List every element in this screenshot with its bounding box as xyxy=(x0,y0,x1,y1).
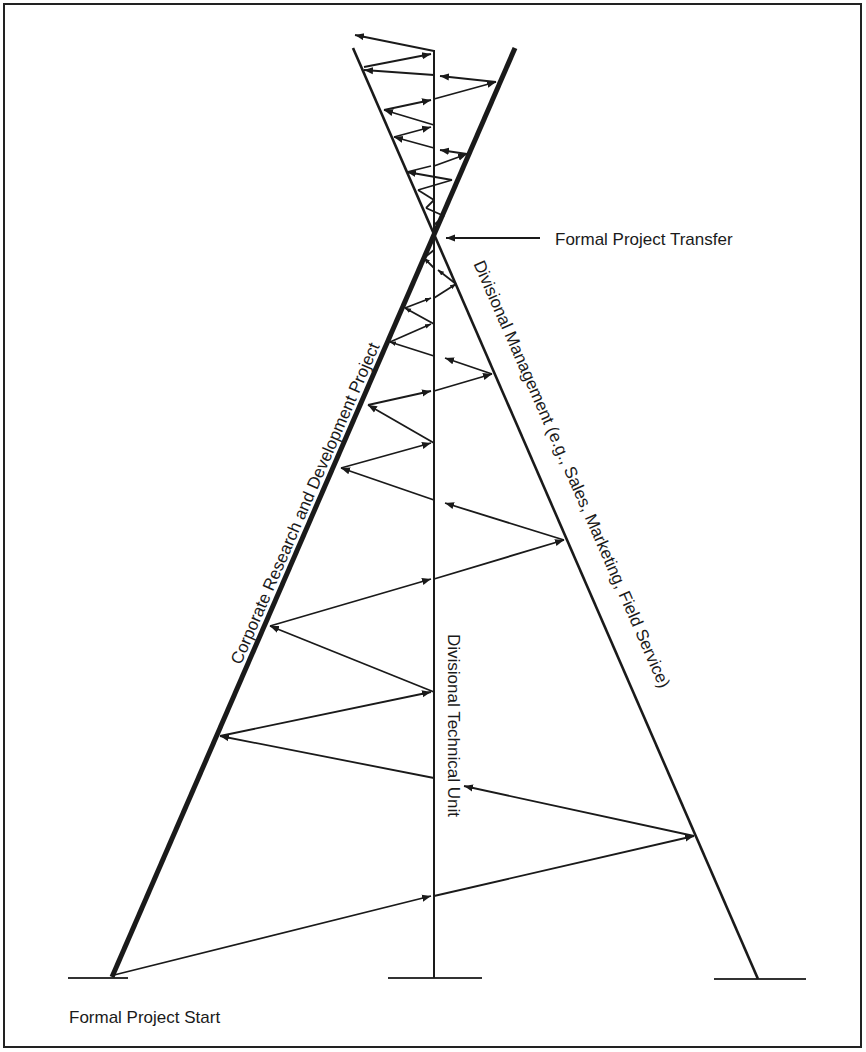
corporate-rd-line xyxy=(112,48,515,977)
interaction-arrows-upper xyxy=(355,35,496,225)
formal-project-transfer-label: Formal Project Transfer xyxy=(555,231,733,248)
interaction-arrows-lower xyxy=(114,250,694,975)
transfer-process-diagram xyxy=(0,0,866,1052)
divisional-technical-label: Divisional Technical Unit xyxy=(445,634,462,817)
formal-project-start-label: Formal Project Start xyxy=(69,1009,220,1026)
base-feet xyxy=(68,978,806,979)
divisional-management-line xyxy=(353,48,758,979)
